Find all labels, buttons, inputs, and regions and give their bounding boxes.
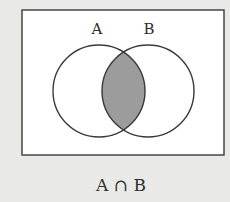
venn-diagram: A B A ∩ B [0, 0, 230, 202]
set-a-label: A [91, 20, 103, 38]
diagram-caption: A ∩ B [95, 175, 146, 195]
set-b-label: B [143, 20, 154, 38]
